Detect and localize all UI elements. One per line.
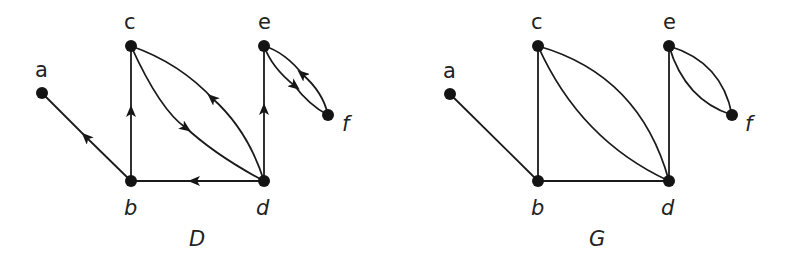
node-a xyxy=(36,87,48,99)
label-d: d xyxy=(256,196,270,220)
edge-d-c-upper xyxy=(131,46,264,181)
graph-G: a b c d e f G xyxy=(443,10,756,251)
edge-f-e-upper xyxy=(264,46,328,115)
edge-a-b xyxy=(450,94,538,181)
label-a: a xyxy=(443,59,456,83)
edge-c-d-upper xyxy=(538,46,669,181)
caption-D: D xyxy=(189,227,205,251)
node-b xyxy=(125,175,137,187)
digraph-D: a b c d e f D xyxy=(35,10,353,251)
node-f xyxy=(322,109,334,121)
node-e xyxy=(663,40,675,52)
edge-e-f-lower xyxy=(264,46,328,115)
node-c xyxy=(532,40,544,52)
diagram-canvas: a b c d e f D a b c d e f G xyxy=(0,0,786,267)
node-e xyxy=(258,40,270,52)
node-d xyxy=(663,175,675,187)
label-c: c xyxy=(531,10,543,34)
label-b: b xyxy=(531,196,544,220)
label-d: d xyxy=(661,196,675,220)
node-d xyxy=(258,175,270,187)
caption-G: G xyxy=(589,227,605,251)
edge-b-a xyxy=(42,93,131,181)
label-e: e xyxy=(663,10,676,34)
edge-c-d-lower xyxy=(131,46,264,181)
node-c xyxy=(125,40,137,52)
label-b: b xyxy=(124,196,137,220)
node-f xyxy=(726,109,738,121)
label-a: a xyxy=(35,58,48,82)
edge-c-d-lower xyxy=(538,46,669,181)
label-e: e xyxy=(258,10,271,34)
label-c: c xyxy=(124,10,136,34)
node-a xyxy=(444,88,456,100)
edge-e-f-lower xyxy=(669,46,732,115)
edge-e-f-upper xyxy=(669,46,732,115)
node-b xyxy=(532,175,544,187)
label-f: f xyxy=(342,112,353,136)
label-f: f xyxy=(745,112,756,136)
